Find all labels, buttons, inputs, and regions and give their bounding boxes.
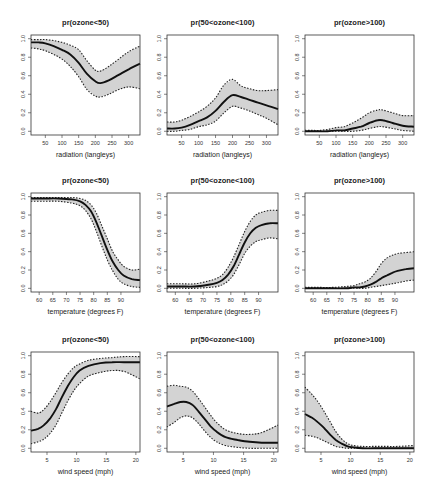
x-tick-label: 15 <box>377 457 383 463</box>
y-tick-label: 0.0 <box>156 444 162 452</box>
y-tick-label: 0.4 <box>294 90 300 98</box>
x-axis-label: temperature (degrees F) <box>185 308 261 316</box>
y-tick-label: 1.0 <box>156 193 162 201</box>
y-tick-label: 1.0 <box>294 193 300 201</box>
x-tick-label: 300 <box>124 140 133 146</box>
x-tick-label: 15 <box>103 457 109 463</box>
x-tick-label: 70 <box>337 297 343 303</box>
y-tick-label: 0.6 <box>294 72 300 80</box>
x-tick-label: 75 <box>351 297 357 303</box>
x-tick-label: 80 <box>365 297 371 303</box>
x-tick-label: 10 <box>210 457 216 463</box>
x-tick-label: 60 <box>172 297 178 303</box>
panel-title: pr(ozone>100) <box>334 18 386 27</box>
x-tick-label: 65 <box>50 297 56 303</box>
y-tick-label: 0.2 <box>156 266 162 274</box>
x-tick-label: 50 <box>179 140 185 146</box>
panel-2-0: 0.00.20.40.60.81.05101520pr(ozone<50)win… <box>20 335 140 476</box>
y-tick-label: 0.2 <box>20 266 26 274</box>
confidence-band <box>167 210 278 288</box>
y-tick-label: 0.2 <box>156 426 162 434</box>
x-tick-label: 10 <box>348 457 354 463</box>
x-tick-label: 100 <box>194 140 203 146</box>
y-tick-label: 0.6 <box>156 72 162 80</box>
y-tick-label: 0.6 <box>20 72 26 80</box>
x-tick-label: 150 <box>74 140 83 146</box>
y-tick-label: 0.2 <box>294 426 300 434</box>
x-tick-label: 60 <box>36 297 42 303</box>
y-tick-label: 0.4 <box>294 248 300 256</box>
x-tick-label: 150 <box>348 140 357 146</box>
y-tick-label: 0.4 <box>294 407 300 415</box>
x-tick-label: 15 <box>241 457 247 463</box>
x-tick-label: 200 <box>228 140 237 146</box>
y-tick-label: 0.6 <box>294 389 300 397</box>
y-tick-label: 0.4 <box>156 90 162 98</box>
x-tick-label: 85 <box>104 297 110 303</box>
plot-canvas: 0.00.20.40.60.81.050100150200250300pr(oz… <box>0 0 433 492</box>
x-tick-label: 5 <box>45 457 48 463</box>
y-tick-label: 0.0 <box>20 127 26 135</box>
x-tick-label: 50 <box>316 140 322 146</box>
y-tick-label: 0.2 <box>294 109 300 117</box>
y-tick-label: 0.2 <box>156 109 162 117</box>
x-axis-label: wind speed (mph) <box>57 468 114 476</box>
y-tick-label: 1.0 <box>294 352 300 360</box>
y-tick-label: 0.8 <box>20 53 26 61</box>
x-tick-label: 300 <box>262 140 271 146</box>
x-tick-label: 250 <box>381 140 390 146</box>
y-tick-label: 1.0 <box>156 352 162 360</box>
panel-title: pr(ozone<50) <box>62 335 109 344</box>
x-axis-label: temperature (degrees F) <box>322 308 398 316</box>
y-tick-label: 0.8 <box>294 370 300 378</box>
x-axis-label: radiation (langleys) <box>193 151 252 159</box>
confidence-band <box>31 40 140 97</box>
x-tick-label: 60 <box>310 297 316 303</box>
panel-2-1: 0.00.20.40.60.81.05101520pr(50<ozone<100… <box>156 335 278 476</box>
y-tick-label: 1.0 <box>20 35 26 43</box>
confidence-band <box>305 110 414 131</box>
y-tick-label: 0.4 <box>20 90 26 98</box>
x-tick-label: 80 <box>91 297 97 303</box>
panel-1-2: 0.00.20.40.60.81.060657075808590pr(ozone… <box>294 176 414 316</box>
x-tick-label: 100 <box>57 140 66 146</box>
x-tick-label: 90 <box>392 297 398 303</box>
confidence-band <box>305 387 414 448</box>
x-tick-label: 90 <box>256 297 262 303</box>
y-tick-label: 0.8 <box>156 211 162 219</box>
x-tick-label: 70 <box>200 297 206 303</box>
x-tick-label: 250 <box>245 140 254 146</box>
x-tick-label: 50 <box>42 140 48 146</box>
y-tick-label: 0.8 <box>20 211 26 219</box>
panel-1-0: 0.00.20.40.60.81.060657075808590pr(ozone… <box>20 176 140 316</box>
x-axis-label: wind speed (mph) <box>194 468 251 476</box>
y-tick-label: 0.2 <box>20 426 26 434</box>
panel-0-2: 0.00.20.40.60.81.050100150200250300pr(oz… <box>294 18 414 159</box>
x-axis-label: wind speed (mph) <box>331 468 388 476</box>
y-tick-label: 1.0 <box>20 193 26 201</box>
x-tick-label: 100 <box>331 140 340 146</box>
panel-2-2: 0.00.20.40.60.81.05101520pr(ozone>100)wi… <box>294 335 414 476</box>
y-tick-label: 0.8 <box>294 211 300 219</box>
y-tick-label: 0.6 <box>156 230 162 238</box>
panel-title: pr(ozone>100) <box>334 176 386 185</box>
y-tick-label: 0.8 <box>294 53 300 61</box>
y-tick-label: 0.4 <box>156 248 162 256</box>
y-tick-label: 0.0 <box>156 285 162 293</box>
y-tick-label: 0.6 <box>156 389 162 397</box>
panel-1-1: 0.00.20.40.60.81.060657075808590pr(50<oz… <box>156 176 278 316</box>
x-tick-label: 150 <box>211 140 220 146</box>
x-tick-label: 85 <box>378 297 384 303</box>
y-tick-label: 0.6 <box>294 230 300 238</box>
panel-title: pr(ozone<50) <box>62 18 109 27</box>
panel-title: pr(50<ozone<100) <box>191 176 255 185</box>
x-tick-label: 65 <box>324 297 330 303</box>
x-axis-label: radiation (langleys) <box>56 151 115 159</box>
y-tick-label: 0.4 <box>156 407 162 415</box>
panel-title: pr(ozone<50) <box>62 176 109 185</box>
y-tick-label: 0.8 <box>156 53 162 61</box>
x-tick-label: 90 <box>118 297 124 303</box>
chart-grid: 0.00.20.40.60.81.050100150200250300pr(oz… <box>0 0 433 492</box>
y-tick-label: 0.8 <box>156 370 162 378</box>
x-tick-label: 20 <box>407 457 413 463</box>
